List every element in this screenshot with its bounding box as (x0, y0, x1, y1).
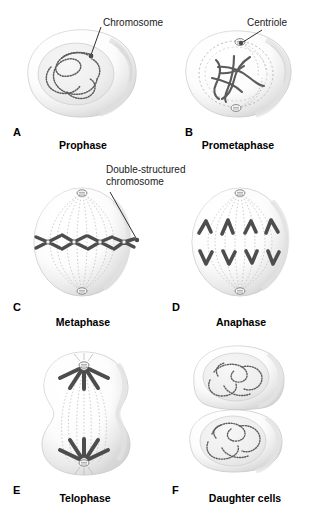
metaphase-cell-illustration (28, 185, 138, 300)
panel-letter-a: A (13, 126, 21, 138)
centriole-top (79, 362, 89, 368)
centriole-top (77, 190, 87, 196)
annotation-line-2: chromosome (106, 176, 164, 187)
annotation-line-1: Double-structured (106, 164, 185, 175)
panel-daughter-cells (180, 342, 300, 474)
cell-body (192, 188, 288, 296)
panel-letter-c: C (13, 301, 21, 313)
panel-anaphase (186, 185, 296, 300)
prometaphase-cell-illustration (178, 26, 298, 122)
panel-caption-metaphase: Metaphase (23, 316, 143, 328)
daughter-cell-lower (190, 410, 282, 472)
panel-caption-prophase: Prophase (18, 139, 148, 151)
telophase-cell-illustration (30, 348, 140, 478)
prophase-cell-illustration (18, 22, 148, 122)
annotation-chromosome: Chromosome (103, 17, 163, 29)
panel-metaphase (28, 185, 138, 300)
panel-caption-daughter-cells: Daughter cells (185, 492, 305, 504)
annotation-centriole: Centriole (247, 17, 287, 29)
centriole-top (235, 190, 245, 196)
panel-caption-prometaphase: Prometaphase (178, 139, 298, 151)
centriole-bottom (231, 105, 241, 112)
centriole-bottom (235, 288, 245, 294)
panel-prometaphase (178, 26, 298, 122)
panel-caption-anaphase: Anaphase (181, 316, 301, 328)
panel-letter-b: B (185, 126, 193, 138)
daughter-cell-upper (194, 346, 284, 410)
annotation-double-structured-chromosome: Double-structured chromosome (106, 164, 201, 187)
anaphase-cell-illustration (186, 185, 296, 300)
panel-telophase (30, 348, 140, 478)
panel-prophase (18, 22, 148, 122)
centriole-bottom (79, 460, 89, 466)
centriole-bottom (77, 288, 87, 294)
mitosis-figure: Chromosome A Prophase (0, 0, 310, 515)
panel-letter-f: F (172, 484, 179, 496)
centriole-top (235, 39, 245, 46)
panel-letter-d: D (172, 301, 180, 313)
daughter-cells-illustration (180, 342, 300, 474)
panel-caption-telophase: Telophase (25, 492, 145, 504)
panel-letter-e: E (13, 484, 21, 496)
